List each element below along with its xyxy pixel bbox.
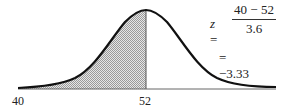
- tick-label-40: 40: [12, 94, 24, 109]
- fraction-bar: [232, 19, 276, 20]
- z-result: = −3.33: [219, 50, 249, 82]
- shaded-region: [18, 10, 146, 89]
- z-fraction: 40 − 52 3.6: [232, 2, 276, 37]
- normal-distribution-figure: 40 52 z = 40 − 52 3.6 = −3.33: [0, 0, 284, 112]
- tick-label-52: 52: [139, 94, 151, 109]
- fraction-numerator: 40 − 52: [232, 2, 276, 18]
- fraction-denominator: 3.6: [232, 21, 276, 37]
- z-equals: z =: [210, 16, 217, 48]
